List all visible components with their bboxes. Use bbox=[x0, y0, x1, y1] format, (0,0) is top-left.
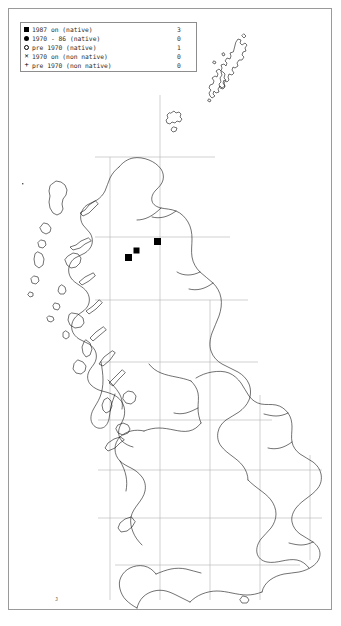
coast-lewis-harris bbox=[49, 181, 67, 215]
coast-south-uist bbox=[34, 252, 44, 268]
cross-x-icon: ✕ bbox=[21, 52, 32, 61]
coast-loch-detail-5 bbox=[90, 327, 106, 341]
coast-lleyn bbox=[105, 437, 124, 451]
record-marker-scotland-west bbox=[125, 254, 132, 261]
coast-orkney bbox=[166, 111, 182, 124]
uk-distribution-map: J bbox=[0, 0, 341, 626]
coast-wales-north bbox=[144, 423, 201, 431]
coast-morecambe bbox=[174, 408, 198, 414]
coast-isle-of-wight bbox=[240, 596, 249, 603]
filled-square-icon bbox=[21, 25, 32, 34]
legend-count-1970-86-native: 0 bbox=[164, 34, 196, 43]
coast-loch-detail-1 bbox=[80, 201, 98, 216]
coast-firth-forth bbox=[189, 283, 213, 290]
legend-label-1970-on-non-native: 1970 on (non native) bbox=[32, 52, 164, 61]
legend-row-pre-1970-non-native: + pre 1970 (non native) 0 bbox=[21, 61, 196, 70]
coast-loch-detail-2 bbox=[70, 238, 91, 250]
coast-cornwall-tip bbox=[119, 566, 156, 608]
record-marker-scotland-central bbox=[134, 248, 140, 254]
coast-thames bbox=[289, 542, 313, 545]
legend-label-1970-86-native: 1970 - 86 (native) bbox=[32, 34, 164, 43]
coast-scotland-west bbox=[69, 167, 133, 447]
coast-kintyre bbox=[91, 362, 115, 428]
coast-england-south bbox=[190, 591, 262, 602]
legend-count-1970-on-non-native: 0 bbox=[164, 52, 196, 61]
coast-colonsay bbox=[63, 331, 69, 339]
coast-skye bbox=[65, 253, 81, 268]
coast-islay bbox=[73, 360, 86, 374]
distribution-map-page: J 1987 on (native) 3 1970 - 86 (native) … bbox=[0, 0, 341, 626]
coast-loch-detail-3 bbox=[79, 273, 95, 285]
coast-anglesey bbox=[116, 423, 130, 435]
coast-moray-firth bbox=[152, 211, 176, 218]
coast-firth-tay bbox=[177, 272, 200, 275]
coast-shetland-islet-c bbox=[208, 99, 211, 102]
open-circle-icon bbox=[21, 43, 32, 52]
coastline-outline bbox=[28, 34, 321, 608]
coast-shetland bbox=[209, 39, 247, 98]
coast-shetland-islet-d bbox=[222, 53, 225, 56]
map-grid bbox=[95, 95, 322, 600]
record-markers bbox=[125, 238, 161, 261]
coast-england-east bbox=[248, 480, 309, 568]
coast-benbecula bbox=[38, 240, 46, 248]
legend-row-1970-86-native: 1970 - 86 (native) 0 bbox=[21, 34, 196, 43]
legend-row-pre-1970-native: pre 1970 (native) 1 bbox=[21, 43, 196, 52]
coast-north-uist bbox=[40, 223, 51, 234]
coast-rum bbox=[58, 285, 66, 294]
legend-label-pre-1970-native: pre 1970 (native) bbox=[32, 43, 164, 52]
filled-circle-icon bbox=[21, 34, 32, 43]
coast-shetland-islet-b bbox=[213, 61, 216, 64]
coast-humber bbox=[264, 413, 288, 416]
coast-hebrides-islet bbox=[28, 292, 33, 297]
artifact-mark-bottom: J bbox=[55, 596, 58, 602]
map-legend: 1987 on (native) 3 1970 - 86 (native) 0 … bbox=[20, 22, 197, 72]
coast-isle-of-man bbox=[123, 391, 136, 404]
plus-icon: + bbox=[21, 61, 32, 70]
legend-label-pre-1970-non-native: pre 1970 (non native) bbox=[32, 61, 164, 70]
coast-scotland-mainland bbox=[119, 158, 251, 480]
coast-orkney-south bbox=[171, 127, 177, 132]
legend-label-1987-on-native: 1987 on (native) bbox=[32, 25, 164, 34]
record-marker-scotland-east bbox=[154, 238, 161, 245]
coast-tiree bbox=[47, 316, 54, 322]
coast-solway bbox=[149, 364, 191, 381]
legend-count-1987-on-native: 3 bbox=[164, 25, 196, 34]
legend-row-1987-on-native: 1987 on (native) 3 bbox=[21, 25, 196, 34]
coast-south-west bbox=[137, 590, 190, 608]
coast-nw-england bbox=[191, 381, 201, 423]
scan-artifacts: J bbox=[22, 183, 58, 602]
legend-row-1970-on-non-native: ✕ 1970 on (non native) 0 bbox=[21, 52, 196, 61]
artifact-mark-left bbox=[22, 183, 23, 184]
coast-inner-moray bbox=[137, 208, 161, 220]
coast-the-wash bbox=[268, 442, 292, 449]
coast-mull bbox=[68, 313, 84, 328]
coast-barra bbox=[31, 276, 39, 284]
coast-shetland-islet-a bbox=[242, 34, 246, 38]
coast-bristol-channel bbox=[156, 568, 201, 574]
coast-loch-detail-4 bbox=[86, 300, 102, 314]
coast-coll bbox=[53, 303, 60, 310]
coast-england-main bbox=[196, 371, 321, 592]
legend-count-pre-1970-non-native: 0 bbox=[164, 61, 196, 70]
legend-count-pre-1970-native: 1 bbox=[164, 43, 196, 52]
coast-wales bbox=[115, 430, 145, 545]
